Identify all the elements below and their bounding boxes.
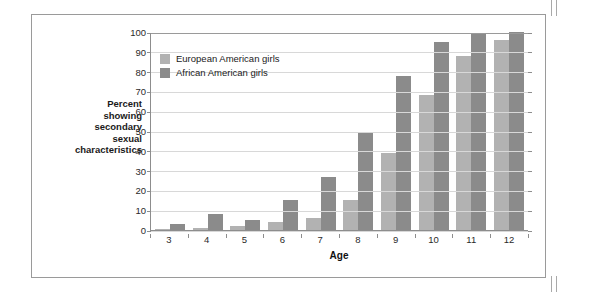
gridline — [151, 132, 528, 133]
gridline — [151, 151, 528, 152]
x-axis-tick-label: 8 — [339, 234, 377, 245]
x-axis-tick-label: 10 — [415, 234, 453, 245]
page-margin-rule-top-left — [551, 0, 552, 16]
gridline — [151, 171, 528, 172]
x-axis-tick-label: 5 — [226, 234, 264, 245]
bar — [230, 226, 245, 230]
y-axis-tick-label: 40 — [118, 146, 146, 157]
y-axis-tick-mark-right — [528, 33, 532, 34]
y-axis-tick-mark-right — [528, 171, 532, 172]
y-axis-tick-mark-right — [528, 151, 532, 152]
y-axis-tick-mark — [147, 92, 151, 93]
gridline — [151, 191, 528, 192]
y-axis-tick-mark — [147, 231, 151, 232]
x-axis-tick-mark — [339, 234, 340, 238]
legend-swatch-icon — [160, 68, 170, 78]
bar — [268, 222, 283, 230]
bar — [358, 133, 373, 230]
legend-swatch-icon — [160, 54, 170, 64]
bar — [494, 40, 509, 230]
legend-item: African American girls — [160, 67, 280, 78]
bar — [283, 200, 298, 230]
y-axis-tick-mark — [147, 151, 151, 152]
bar — [245, 220, 260, 230]
y-axis-tick-label: 50 — [118, 126, 146, 137]
x-axis-tick-mark — [301, 234, 302, 238]
x-axis-tick-mark — [490, 234, 491, 238]
y-axis-tick-label: 20 — [118, 185, 146, 196]
y-axis-tick-label: 60 — [118, 106, 146, 117]
y-axis-tick-mark-right — [528, 231, 532, 232]
y-axis-tick-mark — [147, 211, 151, 212]
y-axis-tick-label: 10 — [118, 205, 146, 216]
bar — [208, 214, 223, 230]
gridline — [151, 231, 528, 232]
x-axis-tick-label: 4 — [188, 234, 226, 245]
gridline — [151, 211, 528, 212]
legend-label: European American girls — [176, 53, 280, 64]
y-axis-tick-mark-right — [528, 211, 532, 212]
y-axis-tick-mark — [147, 33, 151, 34]
x-axis-tick-labels: 3456789101112 — [150, 234, 528, 245]
y-axis-tick-label: 100 — [118, 27, 146, 38]
legend-label: African American girls — [176, 67, 268, 78]
gridline — [151, 33, 528, 34]
bar — [306, 218, 321, 230]
y-axis-tick-mark — [147, 132, 151, 133]
x-axis-tick-mark — [528, 234, 529, 238]
y-axis-tick-mark-right — [528, 52, 532, 53]
y-axis-tick-mark — [147, 72, 151, 73]
y-axis-tick-mark — [147, 52, 151, 53]
y-axis-tick-mark — [147, 112, 151, 113]
y-axis-tick-mark-right — [528, 92, 532, 93]
x-axis-tick-mark — [415, 234, 416, 238]
x-axis-tick-mark — [377, 234, 378, 238]
bar — [456, 56, 471, 230]
y-axis-tick-label: 80 — [118, 67, 146, 78]
bar — [321, 177, 336, 230]
bar — [343, 200, 358, 230]
x-axis-title: Age — [150, 250, 528, 261]
x-axis-tick-label: 9 — [377, 234, 415, 245]
bar — [434, 42, 449, 230]
page-margin-rule-bottom-left — [551, 276, 552, 292]
x-axis-tick-label: 3 — [150, 234, 188, 245]
x-axis-tick-mark — [226, 234, 227, 238]
bar — [396, 76, 411, 230]
x-axis-tick-label: 12 — [490, 234, 528, 245]
y-axis-tick-mark-right — [528, 132, 532, 133]
y-axis-tick-mark-right — [528, 72, 532, 73]
y-axis-tick-mark-right — [528, 191, 532, 192]
page-margin-rule-bottom-right — [556, 276, 557, 292]
y-axis-tick-mark-right — [528, 112, 532, 113]
gridline — [151, 92, 528, 93]
page-margin-rule-top-right — [556, 0, 557, 16]
bar — [170, 224, 185, 230]
legend-item: European American girls — [160, 53, 280, 64]
y-axis-tick-mark — [147, 191, 151, 192]
y-axis-tick-label: 70 — [118, 86, 146, 97]
chart-legend: European American girlsAfrican American … — [160, 53, 280, 78]
x-axis-tick-label: 7 — [301, 234, 339, 245]
x-axis-tick-mark — [188, 234, 189, 238]
gridline — [151, 112, 528, 113]
y-axis-tick-label: 0 — [118, 225, 146, 236]
x-axis-tick-label: 11 — [452, 234, 490, 245]
x-axis-tick-label: 6 — [263, 234, 301, 245]
y-axis-tick-label: 30 — [118, 166, 146, 177]
y-axis-tick-mark — [147, 171, 151, 172]
x-axis-tick-mark — [150, 234, 151, 238]
y-axis-tick-label: 90 — [118, 47, 146, 58]
x-axis-tick-mark — [452, 234, 453, 238]
x-axis-tick-mark — [263, 234, 264, 238]
